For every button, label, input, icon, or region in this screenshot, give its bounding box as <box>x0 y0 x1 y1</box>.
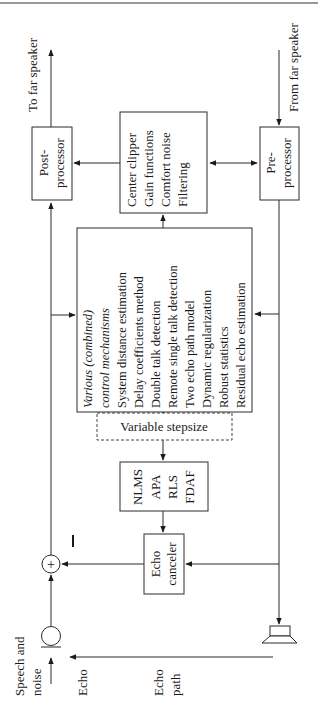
control-mechanisms-block: Various (combined) control mechanisms Sy… <box>77 228 252 412</box>
control-item: Robust statistics <box>217 326 231 408</box>
speech-and-noise-label-2: noise <box>29 668 44 696</box>
residual-item: Gain functions <box>141 130 156 207</box>
control-heading-2: control mechanisms <box>98 308 112 408</box>
control-item: Delay coefficients method <box>132 276 146 408</box>
algorithm-item: NLMS <box>130 469 145 505</box>
pre-processor-block: Pre- processor <box>260 127 299 200</box>
echo-label: Echo <box>75 669 90 696</box>
residual-item: Filtering <box>175 162 190 207</box>
adaptive-algorithms-block: NLMS APA RLS FDAF <box>120 462 208 511</box>
sum-plus-sign: + <box>47 557 55 572</box>
echo-canceler-label-2: canceler <box>164 542 179 586</box>
pre-processor-label-1: Pre- <box>263 152 278 174</box>
echo-canceller-block-diagram: Post- processor Center clipper Gain func… <box>0 0 318 727</box>
post-processor-block: Post- processor <box>32 127 72 200</box>
residual-item: Comfort noise <box>158 132 173 207</box>
speech-and-noise-label-1: Speech and <box>12 636 27 696</box>
control-item: System distance estimation <box>115 271 129 408</box>
to-far-speaker-label: To far speaker <box>25 37 40 112</box>
from-far-speaker-label: From far speaker <box>286 23 301 112</box>
microphone-icon <box>41 627 61 648</box>
summing-junction: + <box>42 555 60 573</box>
residual-item: Center clipper <box>124 132 139 207</box>
post-processor-label-2: processor <box>52 137 67 187</box>
control-item: Two echo path model <box>183 300 197 408</box>
control-item: Remote single talk detection <box>166 265 180 408</box>
variable-stepsize-block: Variable stepsize <box>97 413 232 440</box>
loudspeaker-icon <box>262 626 297 643</box>
echo-canceler-block: Echo canceler <box>144 534 184 594</box>
variable-stepsize-label: Variable stepsize <box>120 419 208 434</box>
residual-processing-block: Center clipper Gain functions Comfort no… <box>120 112 207 213</box>
control-item: Dynamic regularization <box>200 289 214 408</box>
post-processor-label-1: Post- <box>36 150 51 177</box>
echo-path-label-2: path <box>168 673 183 696</box>
algorithm-item: APA <box>148 474 163 499</box>
pre-processor-label-2: processor <box>279 137 294 187</box>
echo-path-label-1: Echo <box>151 669 166 696</box>
algorithm-item: FDAF <box>182 470 197 503</box>
control-heading-1: Various (combined) <box>81 310 95 408</box>
echo-canceler-label-1: Echo <box>148 551 163 578</box>
control-item: Residual echo estimation <box>234 282 248 408</box>
algorithm-item: RLS <box>165 475 180 499</box>
control-item: Double talk detection <box>149 300 163 408</box>
